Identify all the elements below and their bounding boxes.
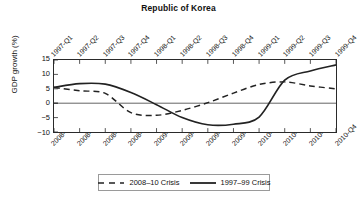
series-line-solid bbox=[54, 65, 336, 126]
chart-container: Republic of Korea GDP growth (%) 151050−… bbox=[0, 0, 357, 219]
legend-label: 1997–99 Crisis bbox=[221, 178, 271, 187]
legend-dashed-line-icon bbox=[97, 179, 125, 187]
legend-solid-line-icon bbox=[189, 179, 217, 187]
chart-legend: 2008–10 Crisis1997–99 Crisis bbox=[98, 174, 270, 191]
legend-item[interactable]: 2008–10 Crisis bbox=[97, 178, 179, 187]
bottom-x-axis-tick-label: 2010-Q4 bbox=[334, 123, 357, 147]
plot-svg bbox=[54, 60, 336, 132]
series-line-dashed bbox=[54, 82, 336, 116]
legend-label: 2008–10 Crisis bbox=[129, 178, 179, 187]
plot-area bbox=[53, 59, 337, 133]
legend-item[interactable]: 1997–99 Crisis bbox=[189, 178, 271, 187]
